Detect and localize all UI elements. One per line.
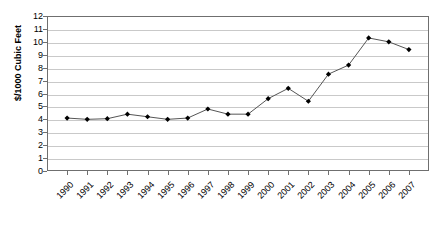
- data-point-marker: [205, 106, 210, 111]
- x-tick-mark: [148, 171, 149, 175]
- y-tick-mark: [43, 16, 47, 17]
- y-tick-label: 5: [13, 101, 43, 111]
- x-tick-mark: [87, 171, 88, 175]
- y-tick-mark: [43, 29, 47, 30]
- x-tick-mark: [389, 171, 390, 175]
- series-line: [67, 38, 409, 119]
- y-tick-label: 9: [13, 50, 43, 60]
- data-point-marker: [145, 114, 150, 119]
- y-tick-label: 12: [13, 11, 43, 21]
- y-tick-mark: [43, 145, 47, 146]
- y-tick-mark: [43, 81, 47, 82]
- data-point-marker: [105, 116, 110, 121]
- y-tick-label: 10: [13, 37, 43, 47]
- x-tick-mark: [248, 171, 249, 175]
- data-point-marker: [185, 115, 190, 120]
- y-tick-mark: [43, 171, 47, 172]
- y-tick-mark: [43, 94, 47, 95]
- data-point-marker: [165, 117, 170, 122]
- x-tick-mark: [328, 171, 329, 175]
- x-tick-mark: [268, 171, 269, 175]
- y-tick-label: 2: [13, 140, 43, 150]
- y-tick-mark: [43, 119, 47, 120]
- y-tick-label: 8: [13, 63, 43, 73]
- y-tick-label: 11: [13, 24, 43, 34]
- x-tick-mark: [228, 171, 229, 175]
- data-point-marker: [125, 112, 130, 117]
- x-tick-mark: [188, 171, 189, 175]
- y-tick-mark: [43, 55, 47, 56]
- y-tick-label: 6: [13, 89, 43, 99]
- data-point-marker: [225, 112, 230, 117]
- data-point-marker: [286, 86, 291, 91]
- y-tick-label: 1: [13, 153, 43, 163]
- y-tick-mark: [43, 106, 47, 107]
- y-tick-label: 7: [13, 76, 43, 86]
- data-series-layer: [47, 16, 429, 171]
- y-tick-label: 4: [13, 114, 43, 124]
- x-tick-mark: [409, 171, 410, 175]
- line-chart: $/1000 Cubic Feet 0123456789101112 19901…: [0, 0, 441, 228]
- data-point-marker: [65, 115, 70, 120]
- y-tick-mark: [43, 42, 47, 43]
- x-tick-mark: [369, 171, 370, 175]
- x-tick-mark: [308, 171, 309, 175]
- data-point-marker: [406, 47, 411, 52]
- data-point-marker: [85, 117, 90, 122]
- y-tick-label: 3: [13, 127, 43, 137]
- x-tick-mark: [67, 171, 68, 175]
- data-point-marker: [386, 39, 391, 44]
- x-tick-mark: [288, 171, 289, 175]
- y-tick-mark: [43, 158, 47, 159]
- y-tick-label: 0: [13, 166, 43, 176]
- y-tick-mark: [43, 68, 47, 69]
- y-axis-tick-labels: 0123456789101112: [11, 16, 43, 171]
- x-tick-mark: [107, 171, 108, 175]
- x-tick-mark: [127, 171, 128, 175]
- y-tick-mark: [43, 132, 47, 133]
- x-tick-mark: [168, 171, 169, 175]
- x-tick-mark: [208, 171, 209, 175]
- x-tick-mark: [349, 171, 350, 175]
